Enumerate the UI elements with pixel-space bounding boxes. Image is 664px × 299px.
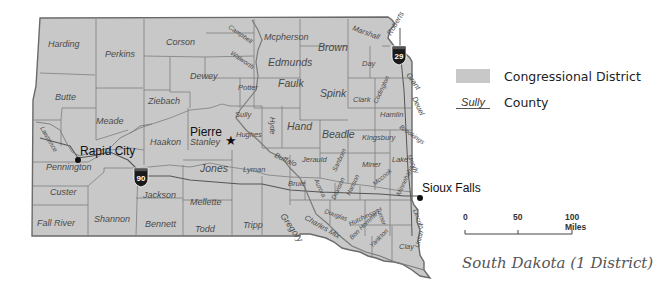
county-label-hughes: Hughes bbox=[236, 130, 262, 139]
scale-tick-100: 100 Miles bbox=[565, 212, 602, 232]
city-label-pierre: Pierre bbox=[190, 125, 222, 139]
interstate-90-shield-icon: 90 bbox=[134, 168, 148, 187]
county-label-meade: Meade bbox=[96, 116, 124, 126]
county-label-lake: Lake bbox=[392, 155, 408, 164]
county-label-jerauld: Jerauld bbox=[301, 155, 327, 164]
scale-tick-50: 50 bbox=[513, 212, 522, 222]
legend-county-label: County bbox=[504, 95, 549, 110]
legend-row-county: Sully County bbox=[456, 91, 641, 113]
interstate-29-number: 29 bbox=[395, 52, 404, 61]
pierre-capital-star-icon: ★ bbox=[225, 133, 237, 148]
county-label-custer: Custer bbox=[50, 187, 78, 197]
county-label-corson: Corson bbox=[166, 37, 195, 47]
map-title: South Dakota (1 District) bbox=[462, 254, 653, 272]
county-label-jackson: Jackson bbox=[142, 190, 176, 200]
county-label-spink: Spink bbox=[320, 87, 347, 99]
county-label-edmunds: Edmunds bbox=[268, 56, 313, 68]
county-label-jones: Jones bbox=[199, 162, 229, 174]
county-label-mellette: Mellette bbox=[190, 197, 222, 207]
county-label-perkins: Perkins bbox=[105, 49, 136, 59]
county-label-miner: Miner bbox=[362, 160, 381, 169]
legend-row-district: Congressional District bbox=[456, 65, 641, 87]
county-label-dewey: Dewey bbox=[190, 71, 218, 81]
interstate-90-number: 90 bbox=[137, 174, 146, 183]
county-label-sully: Sully bbox=[235, 110, 253, 119]
county-label-todd: Todd bbox=[195, 224, 216, 234]
interstate-29-shield-icon: 29 bbox=[392, 46, 406, 65]
county-label-pennington: Pennington bbox=[46, 162, 92, 172]
county-label-butte: Butte bbox=[55, 92, 76, 102]
sioux-falls-dot-icon bbox=[417, 195, 423, 201]
county-label-brown: Brown bbox=[318, 41, 348, 53]
county-label-hyde: Hyde bbox=[268, 117, 277, 135]
county-label-clark: Clark bbox=[353, 95, 372, 104]
county-label-shannon: Shannon bbox=[94, 214, 130, 224]
legend-county-sample: Sully bbox=[456, 96, 490, 109]
city-label-sioux-falls: Sioux Falls bbox=[422, 181, 481, 195]
scale-tick-0: 0 bbox=[463, 212, 468, 222]
county-label-fall-river: Fall River bbox=[37, 218, 76, 228]
county-label-day: Day bbox=[362, 59, 377, 68]
county-label-lyman: Lyman bbox=[243, 165, 265, 174]
county-label-ziebach: Ziebach bbox=[147, 96, 180, 106]
county-label-harding: Harding bbox=[48, 39, 80, 49]
city-label-rapid-city: Rapid City bbox=[80, 144, 135, 158]
scale-labels: 0 50 100 Miles bbox=[462, 212, 602, 242]
county-label-haakon: Haakon bbox=[150, 137, 181, 147]
legend-district-label: Congressional District bbox=[504, 69, 641, 84]
county-label-bennett: Bennett bbox=[145, 219, 177, 229]
district-swatch bbox=[456, 69, 490, 83]
county-label-hamlin: Hamlin bbox=[380, 110, 403, 119]
county-label-tripp: Tripp bbox=[243, 220, 263, 230]
county-label-kingsbury: Kingsbury bbox=[362, 133, 397, 142]
county-label-hand: Hand bbox=[287, 120, 313, 132]
county-label-faulk: Faulk bbox=[278, 77, 304, 89]
legend: Congressional District Sully County bbox=[456, 65, 641, 117]
county-label-mcpherson: Mcpherson bbox=[264, 32, 309, 42]
county-label-beadle: Beadle bbox=[322, 128, 355, 140]
county-label-potter: Potter bbox=[238, 83, 259, 92]
county-label-brule: Brule bbox=[288, 179, 306, 188]
